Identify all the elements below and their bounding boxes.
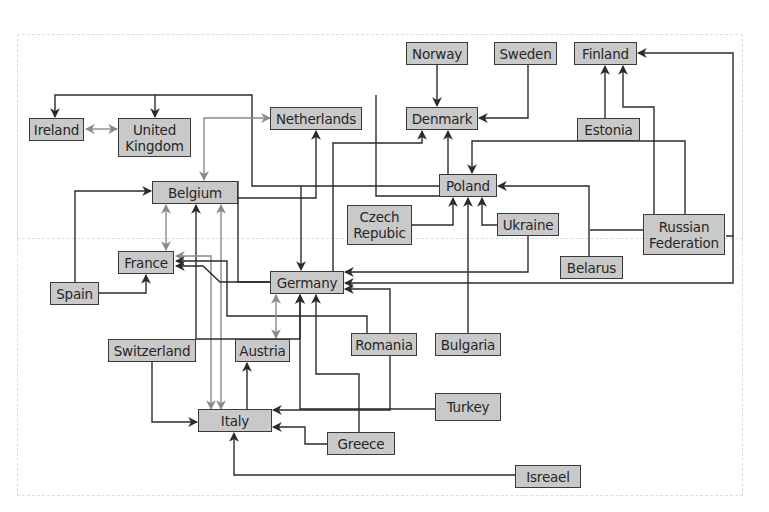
edge-czech-to-poland — [412, 198, 453, 225]
node-label: Belgium — [168, 185, 222, 201]
node-czech: Czech Repubic — [347, 205, 412, 245]
node-norway: Norway — [406, 42, 468, 65]
node-label: Russian Federation — [646, 219, 722, 251]
node-label: Greece — [338, 436, 385, 452]
node-label: Austria — [239, 343, 285, 359]
edge-spain-to-france — [99, 275, 146, 293]
node-austria: Austria — [235, 339, 290, 362]
node-label: Norway — [412, 46, 462, 62]
node-label: Denmark — [412, 111, 473, 127]
node-label: Romania — [355, 337, 413, 353]
node-label: Italy — [221, 413, 249, 429]
node-label: Czech Repubic — [350, 209, 409, 241]
node-label: Spain — [56, 286, 93, 302]
node-greece: Greece — [327, 432, 395, 455]
node-netherlands: Netherlands — [270, 107, 362, 130]
node-label: Switzerland — [114, 343, 191, 359]
edge-romania-to-italy — [273, 356, 390, 410]
edge-russia-to-poland — [472, 141, 685, 214]
edge-netherlands-to-belgium — [204, 118, 270, 180]
node-label: United Kingdom — [121, 122, 188, 154]
node-belgium: Belgium — [152, 181, 238, 204]
node-estonia: Estonia — [577, 118, 640, 141]
node-bulgaria: Bulgaria — [435, 333, 501, 356]
node-turkey: Turkey — [435, 393, 501, 421]
edge-switzerland-to-italy — [152, 362, 197, 422]
node-spain: Spain — [50, 282, 99, 305]
node-italy: Italy — [198, 409, 272, 432]
node-finland: Finland — [574, 42, 637, 65]
edge-belgium-to-netherlands — [238, 131, 316, 198]
node-label: Finland — [582, 46, 629, 62]
node-sweden: Sweden — [494, 42, 557, 65]
node-label: Germany — [277, 275, 338, 291]
node-label: Bulgaria — [441, 337, 495, 353]
node-label: France — [124, 255, 168, 271]
edge-germany-to-belgium — [238, 181, 270, 282]
edge-sweden-to-denmark — [479, 65, 528, 118]
node-label: Sweden — [499, 46, 551, 62]
node-romania: Romania — [351, 333, 417, 356]
node-label: Belarus — [567, 260, 616, 276]
edge-poland-to-uk — [55, 95, 439, 186]
node-switzerland: Switzerland — [108, 339, 196, 362]
node-france: France — [118, 251, 174, 274]
node-belarus: Belarus — [560, 256, 623, 279]
node-russia: Russian Federation — [643, 214, 725, 255]
node-poland: Poland — [439, 174, 497, 197]
node-label: Estonia — [584, 122, 632, 138]
edge-ukraine-to-poland — [482, 198, 497, 225]
node-label: Netherlands — [276, 111, 356, 127]
edge-germany-to-france — [176, 266, 270, 282]
node-label: Ireland — [34, 122, 79, 138]
node-label: Turkey — [447, 399, 490, 415]
node-israel: Isreael — [515, 465, 581, 488]
edge-italy-to-france — [176, 256, 211, 409]
node-germany: Germany — [270, 271, 344, 294]
node-ireland: Ireland — [29, 118, 84, 141]
node-uk: United Kingdom — [118, 118, 191, 157]
edge-greece-to-italy — [273, 427, 327, 444]
node-label: Isreael — [526, 469, 570, 485]
node-ukraine: Ukraine — [497, 213, 559, 236]
node-label: Ukraine — [503, 217, 554, 233]
node-label: Poland — [446, 178, 490, 194]
node-denmark: Denmark — [406, 107, 478, 130]
edge-germany-to-denmark — [333, 131, 422, 271]
